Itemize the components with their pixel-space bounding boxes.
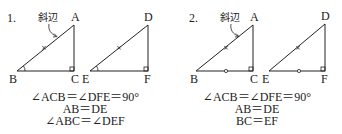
- angle-arc-icon: [24, 66, 26, 71]
- vertex-label-d: D: [321, 9, 330, 23]
- panel-2: 2. 斜辺 × A B C × D E F ∠ACB＝∠DFE＝90° AB＝D…: [189, 9, 330, 128]
- condition-line: ∠ABC＝∠DEF: [45, 114, 125, 128]
- condition-line: BC＝EF: [236, 114, 278, 128]
- right-angle-mark-icon: [249, 67, 253, 71]
- congruence-diagram: 1. 斜辺 × A B C × D E F ∠ACB＝∠DFE＝90° AB＝D…: [0, 0, 342, 134]
- vertex-label-c: C: [250, 72, 258, 86]
- vertex-label-c: C: [71, 72, 79, 86]
- right-angle-mark-icon: [144, 67, 148, 71]
- hypotenuse-label: 斜辺: [220, 11, 240, 23]
- right-angle-mark-icon: [70, 67, 74, 71]
- angle-arc-icon: [97, 66, 99, 71]
- vertex-label-a: A: [71, 10, 80, 24]
- vertex-label-b: B: [9, 72, 17, 86]
- vertex-label-d: D: [144, 10, 153, 24]
- tick-mark-icon: ×: [223, 44, 229, 52]
- panel-number: 1.: [7, 11, 16, 25]
- vertex-label-e: E: [82, 72, 89, 86]
- equal-side-circle-icon: [224, 69, 227, 72]
- tick-mark-icon: ×: [41, 44, 47, 52]
- tick-mark-icon: ×: [116, 44, 122, 52]
- vertex-label-b: B: [190, 72, 198, 86]
- hypotenuse-label: 斜辺: [38, 11, 58, 23]
- tick-mark-icon: ×: [295, 44, 301, 52]
- right-angle-mark-icon: [321, 67, 325, 71]
- vertex-label-f: F: [144, 72, 151, 86]
- vertex-label-f: F: [321, 72, 328, 86]
- vertex-label-e: E: [262, 72, 269, 86]
- vertex-label-a: A: [250, 10, 259, 24]
- panel-1: 1. 斜辺 × A B C × D E F ∠ACB＝∠DFE＝90° AB＝D…: [7, 10, 153, 128]
- panel-number: 2.: [189, 11, 198, 25]
- equal-side-circle-icon: [297, 69, 300, 72]
